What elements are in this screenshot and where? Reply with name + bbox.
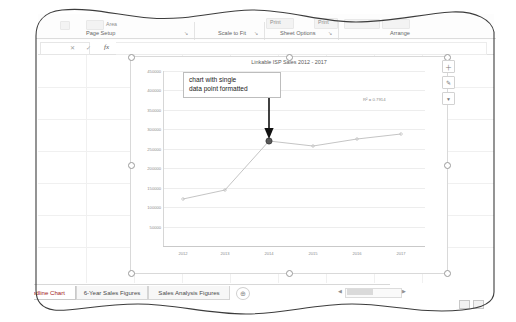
y-tick-label: 350000 [133, 108, 161, 113]
sheet-tab-top-border [10, 284, 390, 285]
y-tick-label: 400000 [133, 88, 161, 93]
sheet-tab-trendline-chart[interactable]: Trendline Chart [12, 286, 76, 300]
insert-function-icon[interactable]: fx [104, 43, 109, 51]
y-tick-label: 200000 [133, 166, 161, 171]
x-tick-label: 2017 [389, 251, 413, 256]
y-tick-label: 250000 [133, 147, 161, 152]
tear-mask-right [496, 0, 516, 322]
tear-mask-bottom [0, 315, 516, 322]
ribbon-ghost-label-print-2: Print [318, 19, 329, 25]
gridline [86, 55, 87, 283]
add-sheet-button[interactable]: ⊕ [236, 287, 250, 300]
formula-cancel-icon[interactable]: ✕ [70, 44, 75, 51]
x-tick-label: 2014 [257, 251, 281, 256]
ribbon-group-label-arrange: Arrange [390, 30, 410, 36]
chart-handle-top-left[interactable] [128, 54, 135, 61]
annotation-callout[interactable]: chart with single data point formatted [183, 72, 281, 98]
trendline-r-squared-label[interactable]: R² = 0.7914 [363, 97, 386, 102]
y-tick-label: 300000 [133, 127, 161, 132]
ribbon-ghost-button-width[interactable] [344, 19, 380, 29]
ribbon-bottom-border [36, 38, 496, 39]
view-buttons-group [459, 300, 484, 309]
chart-object[interactable]: Linkable ISP Sales 2012 - 2017 [130, 56, 448, 274]
name-box[interactable] [40, 42, 90, 55]
ribbon-group-label-page-setup: Page Setup [86, 30, 115, 36]
formula-confirm-icon[interactable]: ✓ [86, 44, 91, 51]
page-layout-view-button[interactable] [473, 300, 484, 309]
excel-screenshot: Area Print Print Page Setup ↘ Scale to F… [0, 0, 516, 322]
x-tick-label: 2013 [213, 251, 237, 256]
annotation-callout-line-2: data point formatted [189, 85, 248, 92]
ribbon-ghost-label-print-1: Print [270, 19, 281, 25]
tear-mask-left [0, 0, 34, 322]
ribbon-group-label-sheet-options: Sheet Options [280, 30, 315, 36]
ribbon-ghost-button-0[interactable] [60, 21, 70, 30]
chart-handle-bottom-center[interactable] [286, 270, 293, 277]
normal-view-button[interactable] [459, 300, 470, 309]
x-tick-label: 2016 [345, 251, 369, 256]
annotation-arrow-icon [261, 93, 277, 141]
chart-handle-middle-right[interactable] [444, 162, 451, 169]
ribbon: Area Print Print Page Setup ↘ Scale to F… [38, 10, 494, 40]
x-tick-label: 2015 [301, 251, 325, 256]
scroll-left-icon[interactable]: ◀ [338, 288, 342, 294]
page-setup-dialog-launcher[interactable]: ↘ [184, 30, 188, 36]
scroll-right-icon[interactable]: ▶ [402, 288, 406, 294]
scale-to-fit-dialog-launcher[interactable]: ↘ [254, 30, 258, 36]
sheet-options-dialog-launcher[interactable]: ↘ [328, 30, 332, 36]
chart-filters-button[interactable]: ▼ [442, 92, 455, 105]
sheet-tab-sales-analysis-figures[interactable]: Sales Analysis Figures [148, 286, 230, 300]
chart-handle-bottom-left[interactable] [128, 270, 135, 277]
formula-input[interactable] [116, 42, 487, 55]
horizontal-scrollbar-thumb[interactable] [347, 289, 373, 295]
ribbon-ghost-button-1[interactable] [86, 20, 104, 30]
y-tick-label: 50000 [133, 225, 161, 230]
y-tick-label: 100000 [133, 205, 161, 210]
y-tick-label: 150000 [133, 186, 161, 191]
annotation-callout-line-1: chart with single [189, 76, 236, 83]
chart-styles-button[interactable]: ✎ [442, 76, 455, 89]
chart-handle-bottom-right[interactable] [444, 270, 451, 277]
y-tick-label: 450000 [133, 69, 161, 74]
series-line [183, 134, 401, 199]
chart-handle-top-center[interactable] [286, 54, 293, 61]
x-tick-label: 2012 [171, 251, 195, 256]
ribbon-group-label-scale-to-fit: Scale to Fit [218, 30, 246, 36]
chart-handle-middle-left[interactable] [128, 162, 135, 169]
chart-elements-button[interactable]: ＋ [442, 60, 455, 73]
sheet-tab-6-year-sales-figures[interactable]: 6-Year Sales Figures [76, 286, 148, 300]
ribbon-ghost-label-area: Area [106, 21, 117, 27]
ribbon-ghost-button-grid[interactable] [382, 19, 410, 29]
